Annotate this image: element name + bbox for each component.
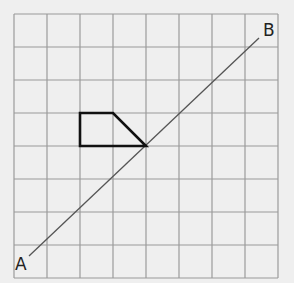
background (0, 0, 294, 283)
point-label-a: A (15, 254, 27, 274)
reflection-diagram: A B (0, 0, 294, 283)
point-label-b: B (263, 20, 275, 40)
